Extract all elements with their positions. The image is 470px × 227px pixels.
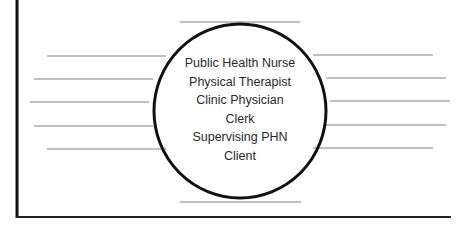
role-list: Public Health Nurse Physical Therapist C…: [185, 56, 296, 163]
right-blank-lines: [313, 55, 450, 148]
role-network-diagram: Public Health Nurse Physical Therapist C…: [0, 0, 470, 227]
role-label: Clerk: [225, 112, 255, 126]
role-label: Client: [224, 149, 256, 163]
role-label: Supervising PHN: [192, 130, 287, 144]
center-circle: [154, 24, 326, 198]
role-label: Public Health Nurse: [185, 56, 296, 70]
role-label: Clinic Physician: [196, 93, 284, 107]
role-label: Physical Therapist: [189, 75, 291, 89]
left-blank-lines: [30, 56, 166, 149]
